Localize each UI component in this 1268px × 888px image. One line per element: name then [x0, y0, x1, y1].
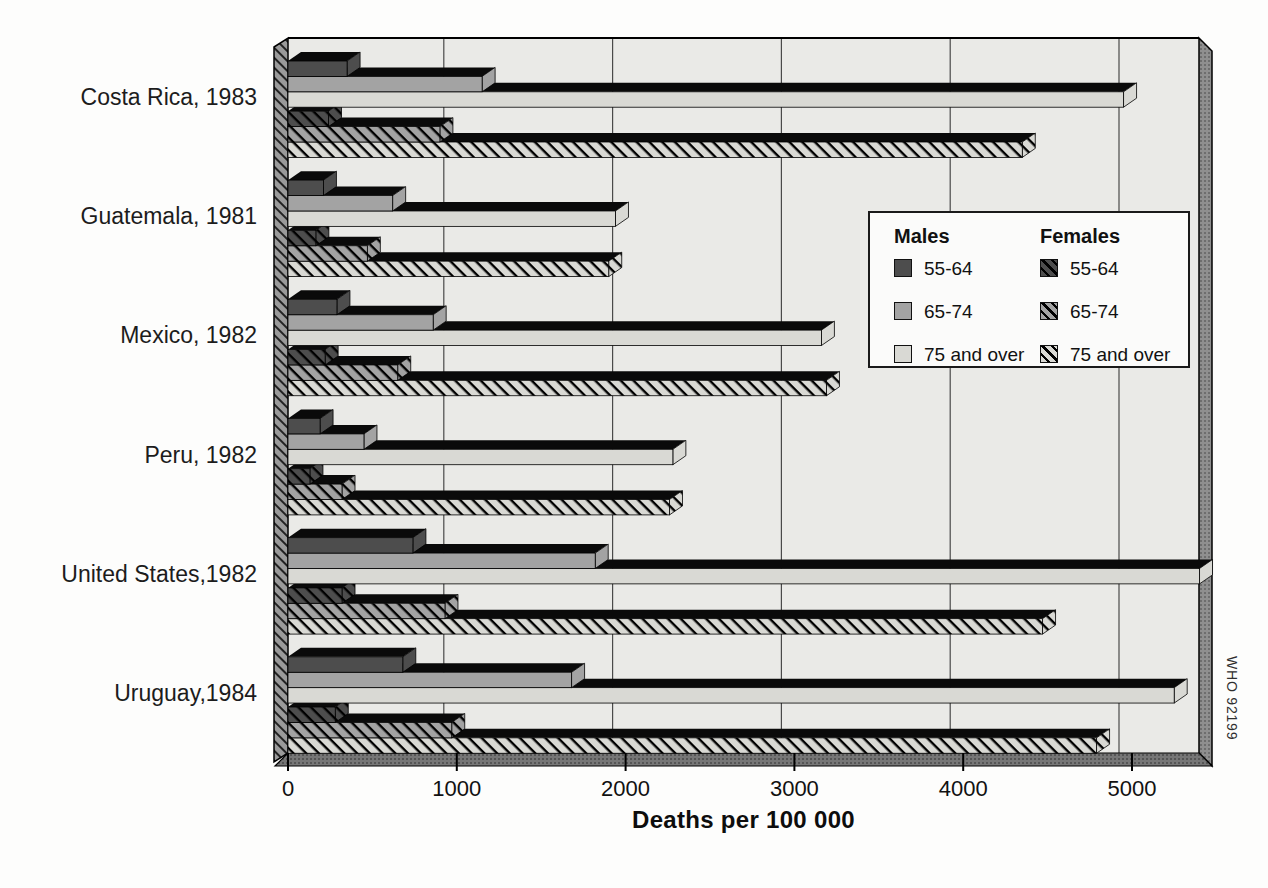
legend-males-title: Males	[894, 225, 950, 248]
bar-females-65-74	[288, 484, 342, 499]
bar-females-65-74	[288, 603, 445, 618]
legend-swatch-males-75-over	[894, 345, 912, 363]
bar-top-face-males-55-64	[288, 648, 416, 657]
bar-males-75-and-over	[288, 449, 673, 464]
bar-males-75-and-over	[288, 92, 1124, 107]
legend-label: 55-64	[924, 259, 973, 278]
legend-swatch-males-65-74	[894, 302, 912, 320]
category-label: Peru, 1982	[0, 442, 257, 468]
category-label: Costa Rica, 1983	[0, 84, 257, 110]
bar-males-65-74	[288, 434, 364, 449]
bar-females-65-74	[288, 127, 440, 142]
legend-swatch-females-55-64	[1040, 259, 1058, 277]
left-wall	[274, 38, 288, 762]
x-tick-label: 5000	[1087, 776, 1177, 802]
floor	[275, 753, 1212, 766]
bar-males-65-74	[288, 315, 433, 330]
bar-females-55-64	[288, 469, 310, 484]
bar-males-75-and-over	[288, 568, 1200, 583]
bar-females-55-64	[288, 111, 329, 126]
bar-males-75-and-over	[288, 688, 1174, 703]
legend-label: 65-74	[924, 302, 973, 321]
category-label: Guatemala, 1981	[0, 203, 257, 229]
x-tick-label: 0	[243, 776, 333, 802]
bar-females-65-74	[288, 365, 398, 380]
bar-females-75-and-over	[288, 380, 826, 395]
category-label: Uruguay,1984	[0, 680, 257, 706]
bar-males-65-74	[288, 196, 393, 211]
bar-males-55-64	[288, 538, 413, 553]
bar-males-55-64	[288, 657, 403, 672]
who-reference-watermark: WHO 92199	[1224, 656, 1240, 740]
who-mortality-bar-chart: Costa Rica, 1983Guatemala, 1981Mexico, 1…	[0, 0, 1268, 888]
category-label: United States,1982	[0, 561, 257, 587]
category-label: Mexico, 1982	[0, 322, 257, 348]
bar-females-75-and-over	[288, 619, 1043, 634]
legend-label: 75 and over	[1070, 345, 1170, 364]
bar-females-55-64	[288, 707, 335, 722]
bar-males-55-64	[288, 299, 337, 314]
bar-males-55-64	[288, 61, 347, 76]
x-tick-label: 3000	[749, 776, 839, 802]
bar-females-65-74	[288, 246, 367, 261]
bar-females-75-and-over	[288, 142, 1022, 157]
bar-females-75-and-over	[288, 738, 1097, 753]
legend-label: 55-64	[1070, 259, 1119, 278]
bar-males-75-and-over	[288, 330, 821, 345]
bar-males-65-74	[288, 76, 482, 91]
legend-females-title: Females	[1040, 225, 1120, 248]
bar-females-55-64	[288, 230, 316, 245]
legend-swatch-females-75-over	[1040, 345, 1058, 363]
x-axis-title: Deaths per 100 000	[288, 806, 1199, 834]
bar-females-55-64	[288, 588, 342, 603]
bar-females-75-and-over	[288, 500, 669, 515]
bar-males-65-74	[288, 672, 572, 687]
bar-females-55-64	[288, 350, 325, 365]
bar-top-face-males-55-64	[288, 529, 426, 538]
legend-box: Males Females 55-64 65-74 75 and over 55…	[868, 211, 1190, 368]
x-tick-label: 1000	[412, 776, 502, 802]
bar-males-75-and-over	[288, 211, 615, 226]
legend-swatch-females-65-74	[1040, 302, 1058, 320]
bar-males-65-74	[288, 553, 595, 568]
legend-label: 65-74	[1070, 302, 1119, 321]
x-tick-label: 4000	[918, 776, 1008, 802]
legend-swatch-males-55-64	[894, 259, 912, 277]
right-wall	[1199, 38, 1212, 766]
legend-label: 75 and over	[924, 345, 1024, 364]
bar-males-55-64	[288, 180, 323, 195]
bar-females-65-74	[288, 722, 452, 737]
bar-males-55-64	[288, 419, 320, 434]
x-tick-label: 2000	[581, 776, 671, 802]
bar-females-75-and-over	[288, 261, 609, 276]
